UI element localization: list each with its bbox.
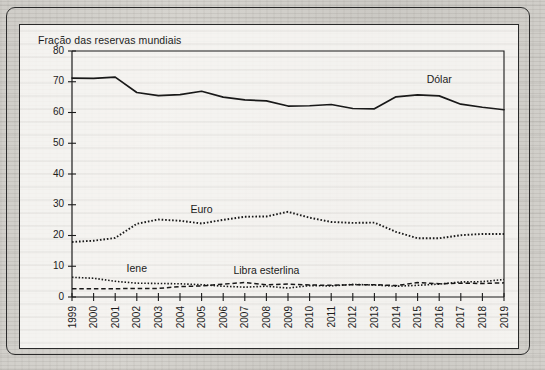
x-tick-label: 2006	[218, 306, 229, 329]
series-line-euro	[72, 212, 504, 242]
x-tick-label: 1999	[67, 306, 78, 329]
series-line-libra-esterlina	[72, 283, 504, 289]
x-tick-label: 2016	[434, 306, 445, 329]
x-tick-label: 2001	[110, 306, 121, 329]
series-label-iene: Iene	[127, 262, 148, 274]
x-tick-label: 2002	[131, 306, 142, 329]
series-lines	[72, 77, 504, 289]
x-tick-label: 2017	[455, 306, 466, 329]
x-tick-label: 2015	[412, 306, 423, 329]
x-tick-label: 2000	[88, 306, 99, 329]
reserve-currency-line-chart: 01020304050607080 1999200020012002200320…	[20, 25, 519, 349]
chart-axes	[72, 51, 504, 297]
series-label-libra-esterlina: Libra esterlina	[233, 264, 299, 276]
y-tick-label: 20	[53, 229, 65, 240]
y-tick-label: 30	[53, 198, 65, 209]
x-tick-label: 2004	[175, 306, 186, 329]
y-tick-label: 40	[53, 168, 65, 179]
y-tick-label: 0	[58, 291, 64, 302]
figure-frame: Fração das reservas mundiais 01020304050…	[19, 24, 519, 349]
x-tick-label: 2009	[283, 306, 294, 329]
series-line-iene	[72, 277, 504, 288]
x-tick-label: 2012	[347, 306, 358, 329]
x-tick-label: 2011	[326, 306, 337, 328]
series-label-euro: Euro	[191, 203, 213, 215]
series-label-dlar: Dólar	[427, 73, 453, 85]
x-tick-label: 2003	[153, 306, 164, 329]
x-tick-label: 2018	[477, 306, 488, 329]
x-tick-label: 2005	[196, 306, 207, 329]
y-tick-label: 60	[53, 106, 65, 117]
x-tick-label: 2013	[369, 306, 380, 329]
x-axis-ticks: 1999200020012002200320042005200620072008…	[67, 293, 510, 328]
x-tick-label: 2019	[499, 306, 510, 329]
x-tick-label: 2010	[304, 306, 315, 329]
y-tick-label: 50	[53, 137, 65, 148]
series-labels: DólarEuroIeneLibra esterlina	[127, 73, 453, 276]
y-tick-label: 80	[53, 45, 65, 56]
x-tick-label: 2008	[261, 306, 272, 329]
x-tick-label: 2007	[239, 306, 250, 329]
x-tick-label: 2014	[391, 306, 402, 329]
y-tick-label: 10	[53, 260, 65, 271]
y-tick-label: 70	[53, 75, 65, 86]
scanned-page-background: Fração das reservas mundiais 01020304050…	[0, 0, 545, 370]
